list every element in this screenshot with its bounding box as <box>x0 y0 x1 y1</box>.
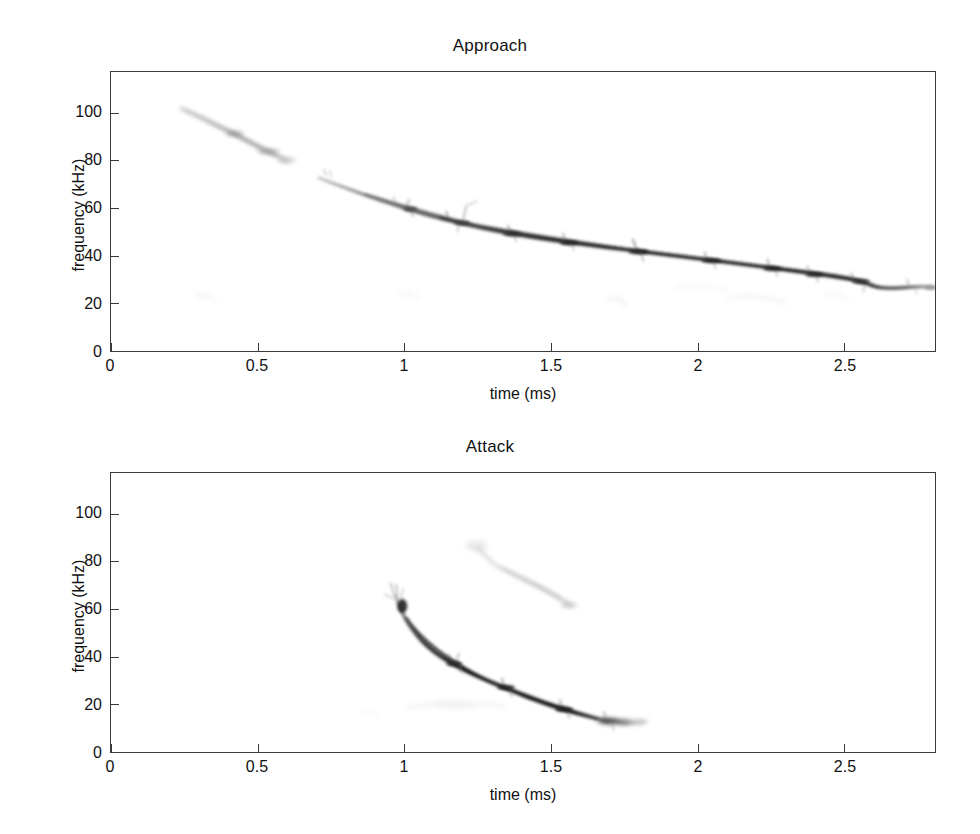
x-tick-label-2: 2 <box>694 357 703 375</box>
y-tick-label-80: 80 <box>84 552 102 570</box>
x-tick-label-0.5: 0.5 <box>246 758 268 776</box>
y-tick-label-0: 0 <box>93 744 102 762</box>
x-tick-label-2: 2 <box>694 758 703 776</box>
spectrogram-figure: Approach frequency (kHz) 0 20 40 60 80 1… <box>0 0 980 834</box>
x-axis-title-attack: time (ms) <box>110 786 936 804</box>
x-tick-label-0: 0 <box>106 758 115 776</box>
x-tick-label-1: 1 <box>400 357 409 375</box>
x-axis-title-approach: time (ms) <box>110 385 936 403</box>
y-axis-labels-approach: 0 20 40 60 80 100 <box>42 71 102 352</box>
y-tick-label-60: 60 <box>84 199 102 217</box>
y-axis-labels-attack: 0 20 40 60 80 100 <box>42 472 102 753</box>
x-axis-labels-attack: 0 0.5 1 1.5 2 2.5 <box>110 758 936 784</box>
x-tick-label-0: 0 <box>106 357 115 375</box>
panel-approach: Approach frequency (kHz) 0 20 40 60 80 1… <box>0 0 980 420</box>
x-axis-labels-approach: 0 0.5 1 1.5 2 2.5 <box>110 357 936 383</box>
y-tick-label-100: 100 <box>75 504 102 522</box>
panel-title-approach: Approach <box>0 36 980 56</box>
panel-attack: Attack frequency (kHz) 0 20 40 60 80 100 <box>0 414 980 834</box>
spectrogram-trace-approach <box>111 72 935 351</box>
plot-area-approach <box>110 71 936 352</box>
y-tick-label-20: 20 <box>84 696 102 714</box>
y-tick-label-40: 40 <box>84 247 102 265</box>
y-tick-0 <box>111 351 119 352</box>
y-tick-label-40: 40 <box>84 648 102 666</box>
x-tick-label-2.5: 2.5 <box>834 758 856 776</box>
y-tick-label-60: 60 <box>84 600 102 618</box>
y-tick-label-0: 0 <box>93 343 102 361</box>
y-tick-label-80: 80 <box>84 151 102 169</box>
panel-title-attack: Attack <box>0 437 980 457</box>
x-tick-label-2.5: 2.5 <box>834 357 856 375</box>
y-tick-0 <box>111 752 119 753</box>
x-tick-label-1.5: 1.5 <box>540 357 562 375</box>
y-tick-label-20: 20 <box>84 295 102 313</box>
x-tick-label-1: 1 <box>400 758 409 776</box>
x-tick-label-1.5: 1.5 <box>540 758 562 776</box>
plot-area-attack <box>110 472 936 753</box>
y-tick-label-100: 100 <box>75 103 102 121</box>
spectrogram-trace-attack <box>111 473 935 752</box>
x-tick-label-0.5: 0.5 <box>246 357 268 375</box>
